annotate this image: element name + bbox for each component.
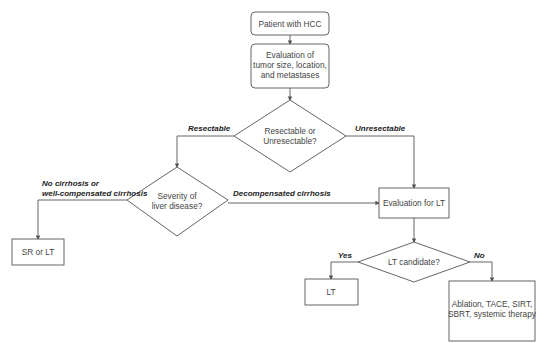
edge-label-resectable: Resectable bbox=[188, 124, 231, 133]
node-therapy-line1: Ablation, TACE, SIRT, bbox=[452, 299, 533, 309]
hcc-flowchart: Patient with HCC Evaluation of tumor siz… bbox=[0, 0, 546, 343]
node-evaluation-line2: tumor size, location, bbox=[253, 60, 327, 70]
node-lt: LT bbox=[305, 279, 358, 305]
decision-lt-candidate: LT candidate? bbox=[358, 242, 470, 282]
edge-no-cirrhosis bbox=[38, 200, 127, 239]
node-eval-lt-label: Evaluation for LT bbox=[383, 198, 445, 208]
edge-label-decompensated: Decompensated cirrhosis bbox=[233, 189, 331, 198]
edge-label-no-cirrhosis-2: well-compensated cirrhosis bbox=[42, 189, 148, 198]
decision-resectable-line2: Unresectable? bbox=[263, 136, 317, 146]
decision-severity: Severity of liver disease? bbox=[127, 167, 228, 236]
node-patient-label: Patient with HCC bbox=[258, 19, 321, 29]
node-evaluation-line1: Evaluation of bbox=[266, 50, 315, 60]
node-evaluation-line3: and metastases bbox=[261, 70, 320, 80]
node-evaluation-for-lt: Evaluation for LT bbox=[379, 188, 449, 218]
decision-severity-line2: liver disease? bbox=[152, 201, 203, 211]
edge-resectable bbox=[177, 136, 234, 167]
edge-yes bbox=[331, 262, 358, 279]
node-sr-or-lt-label: SR or LT bbox=[22, 247, 55, 257]
decision-lt-candidate-label: LT candidate? bbox=[388, 257, 440, 267]
node-therapy-line2: SBRT, systemic therapy bbox=[448, 309, 537, 319]
edge-label-no: No bbox=[474, 251, 485, 260]
edge-label-unresectable: Unresectable bbox=[355, 124, 406, 133]
edge-unresectable bbox=[346, 136, 414, 188]
node-patient-with-hcc: Patient with HCC bbox=[251, 12, 329, 35]
decision-resectable: Resectable or Unresectable? bbox=[234, 100, 346, 172]
node-evaluation: Evaluation of tumor size, location, and … bbox=[251, 44, 329, 88]
node-lt-label: LT bbox=[326, 287, 335, 297]
decision-severity-line1: Severity of bbox=[157, 191, 197, 201]
node-sr-or-lt: SR or LT bbox=[12, 239, 64, 265]
decision-resectable-line1: Resectable or bbox=[264, 126, 315, 136]
edge-no bbox=[470, 262, 492, 281]
edge-label-yes: Yes bbox=[338, 251, 352, 260]
node-alternative-therapy: Ablation, TACE, SIRT, SBRT, systemic the… bbox=[448, 281, 537, 341]
edge-label-no-cirrhosis-1: No cirrhosis or bbox=[42, 179, 100, 188]
